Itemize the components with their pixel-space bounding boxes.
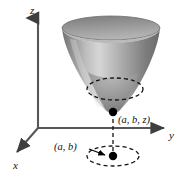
x-axis-label: x [13, 160, 18, 171]
y-axis-label: y [169, 130, 174, 141]
projection-point [109, 152, 117, 160]
z-axis-label: z [30, 5, 34, 16]
surface-vertex-point [109, 108, 117, 116]
ab-leader-arrow [89, 149, 105, 155]
figure-canvas [0, 0, 186, 174]
funnel-3d-figure: z y x (a, b, z) (a, b) [0, 0, 186, 174]
vertex-point-label: (a, b, z) [118, 115, 150, 126]
funnel-surface [62, 16, 160, 113]
projection-point-label: (a, b) [54, 142, 77, 153]
x-axis-line [17, 128, 38, 152]
